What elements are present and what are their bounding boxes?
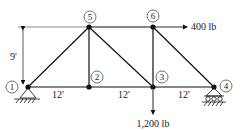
member-1-5: [28, 27, 89, 87]
horizontal-load: 400 lb: [155, 21, 216, 32]
node-label-6: 6: [151, 11, 156, 21]
joint-1: [25, 84, 30, 89]
joint-2: [86, 84, 91, 89]
height-label: 9': [10, 51, 17, 62]
span-labels: 12' 12' 12': [52, 89, 190, 100]
pin-support-icon: [14, 88, 40, 103]
joint-5: [86, 24, 91, 29]
node-label-3: 3: [160, 72, 165, 82]
node-label-5: 5: [88, 12, 93, 22]
horizontal-load-label: 400 lb: [191, 21, 216, 32]
joint-3: [150, 84, 155, 89]
node-label-2: 2: [95, 72, 100, 82]
span-label-3: 12': [178, 89, 190, 100]
span-label-2: 12': [118, 89, 130, 100]
height-dimension: 9': [10, 27, 89, 84]
truss-members: [28, 27, 214, 87]
truss-diagram: 9' 1 2 3 4 5 6 12' 12' 12': [0, 0, 242, 130]
node-label-4: 4: [224, 81, 229, 91]
span-label-1: 12': [52, 89, 64, 100]
joint-4: [211, 84, 216, 89]
node-label-1: 1: [10, 82, 15, 92]
vertical-load: 1,200 lb: [137, 90, 170, 129]
joint-6: [150, 24, 155, 29]
vertical-load-label: 1,200 lb: [137, 118, 170, 129]
